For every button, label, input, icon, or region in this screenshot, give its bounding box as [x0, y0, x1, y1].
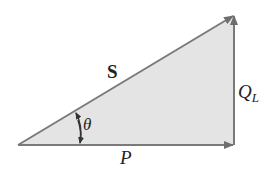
power-triangle-diagram [0, 0, 275, 169]
label-p: P [120, 148, 132, 167]
label-q-l: QL [238, 82, 259, 104]
label-q-main: Q [238, 81, 252, 102]
label-theta: θ [83, 116, 91, 133]
label-s: S [107, 62, 118, 81]
label-q-subscript: L [252, 90, 259, 105]
